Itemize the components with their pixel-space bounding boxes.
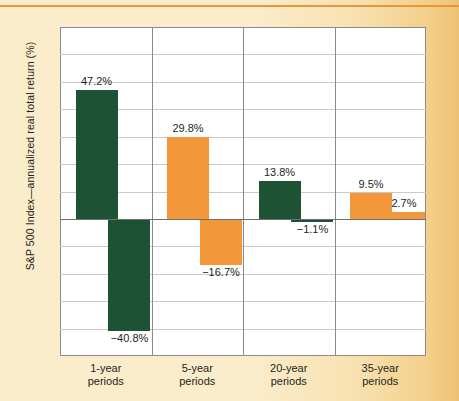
- x-category-label-line2: periods: [151, 375, 243, 388]
- x-category-label: 5-yearperiods: [151, 362, 243, 388]
- bar-value-label: 29.8%: [147, 122, 229, 134]
- group-separator: [335, 27, 336, 356]
- x-category-label-line2: periods: [60, 375, 152, 388]
- x-category-label-line1: 35-year: [334, 362, 426, 375]
- top-rule-divider: [0, 5, 459, 7]
- bar-value-label: 2.7%: [363, 197, 445, 209]
- bar-value-label: 47.2%: [56, 75, 138, 87]
- bar-best[interactable]: [259, 181, 301, 219]
- bar-best[interactable]: [167, 137, 209, 219]
- x-category-label-line2: periods: [243, 375, 335, 388]
- plot-area: 706050403020100−10−20−30−40−50 47.2%−40.…: [60, 27, 426, 356]
- x-category-label-line1: 20-year: [243, 362, 335, 375]
- bar-value-label: 9.5%: [330, 178, 412, 190]
- group-separator: [152, 27, 153, 356]
- zero-line: [60, 219, 426, 221]
- x-category-label-line2: periods: [334, 375, 426, 388]
- x-category-label: 35-yearperiods: [334, 362, 426, 388]
- bar-best[interactable]: [76, 90, 118, 219]
- x-category-label: 20-yearperiods: [243, 362, 335, 388]
- bar-worst[interactable]: [383, 212, 425, 219]
- bar-value-label: −40.8%: [88, 332, 170, 344]
- chart-figure: S&P 500 Index—annualized real total retu…: [0, 0, 459, 401]
- x-category-label-line1: 1-year: [60, 362, 152, 375]
- group-separator: [243, 27, 244, 356]
- bar-value-label: −16.7%: [180, 266, 262, 278]
- x-category-label-line1: 5-year: [151, 362, 243, 375]
- bar-value-label: −1.1%: [271, 223, 353, 235]
- y-axis-title: S&P 500 Index—annualized real total retu…: [24, 0, 36, 326]
- bar-value-label: 13.8%: [239, 166, 321, 178]
- bar-worst[interactable]: [108, 219, 150, 331]
- x-category-label: 1-yearperiods: [60, 362, 152, 388]
- bar-worst[interactable]: [200, 219, 242, 265]
